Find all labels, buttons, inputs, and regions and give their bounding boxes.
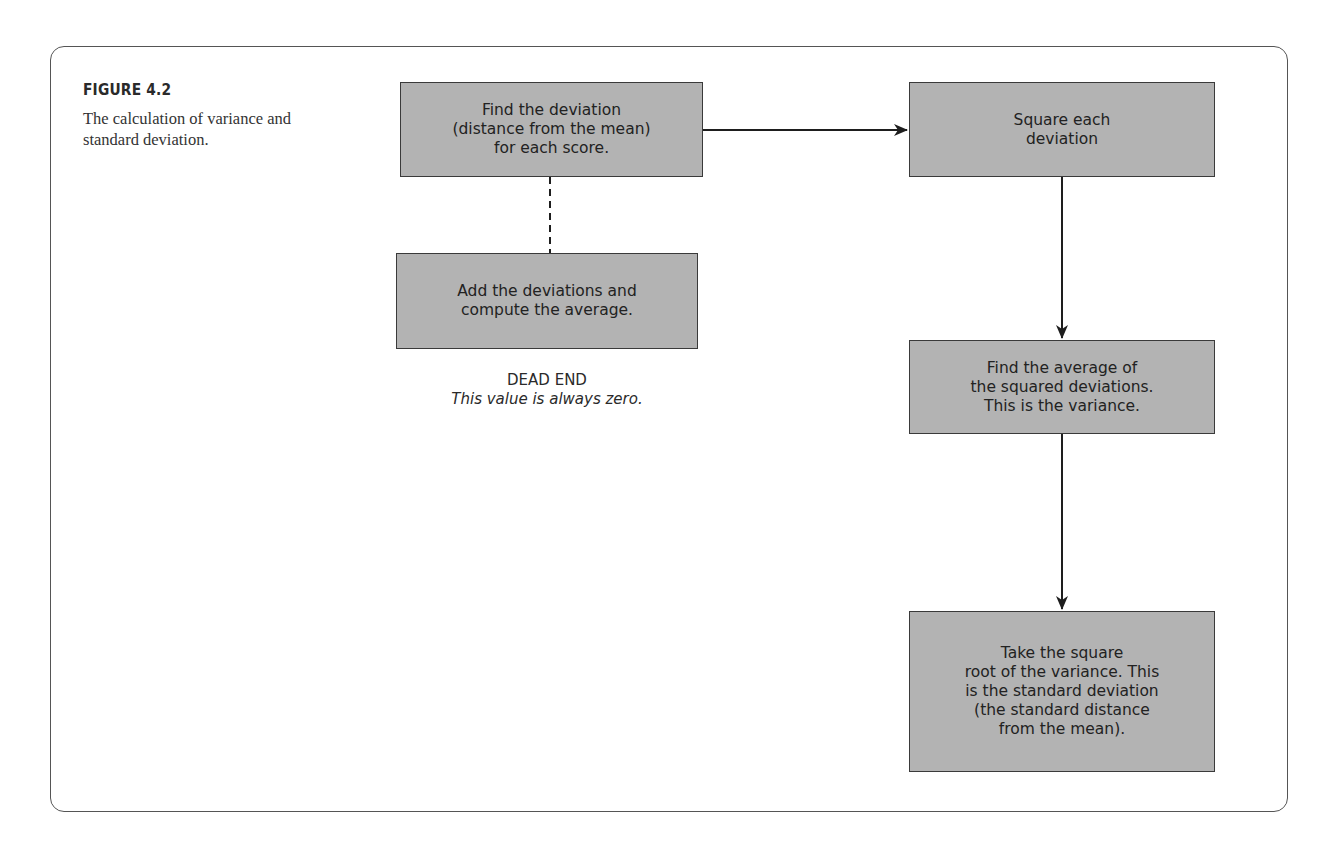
figure-label: FIGURE 4.2 bbox=[83, 81, 322, 99]
step-find-deviation: Find the deviation (distance from the me… bbox=[400, 82, 703, 177]
dead-end-label: DEAD END This value is always zero. bbox=[396, 371, 698, 409]
dead-end-note: This value is always zero. bbox=[396, 390, 698, 409]
dead-end-title: DEAD END bbox=[396, 371, 698, 390]
figure-caption-text: The calculation of variance and standard… bbox=[83, 108, 343, 150]
step-add-deviations: Add the deviations and compute the avera… bbox=[396, 253, 698, 349]
step-square-root-variance: Take the square root of the variance. Th… bbox=[909, 611, 1215, 772]
step-average-squared-deviations: Find the average of the squared deviatio… bbox=[909, 340, 1215, 434]
step-square-deviation: Square each deviation bbox=[909, 82, 1215, 177]
figure-caption: FIGURE 4.2 The calculation of variance a… bbox=[83, 81, 343, 150]
